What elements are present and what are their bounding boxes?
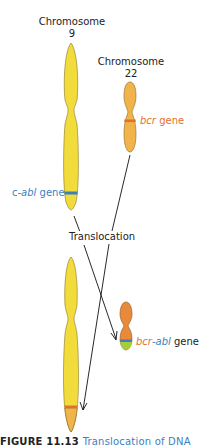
bcr-abl-gene-label: bcr-abl gene bbox=[136, 336, 199, 348]
translocation-label: Translocation bbox=[68, 231, 136, 243]
fusion-green-cap bbox=[120, 342, 131, 350]
bcr-band bbox=[124, 120, 135, 123]
chromosome-9-label: Chromosome 9 bbox=[36, 16, 108, 40]
abl-gene-name: abl bbox=[21, 187, 36, 198]
chromosome-22-label: Chromosome 22 bbox=[95, 56, 167, 80]
line-chr9-to-fusion bbox=[84, 245, 116, 339]
bcr-band-bottom bbox=[65, 406, 77, 409]
bcr-gene-suffix: gene bbox=[156, 115, 184, 126]
chromosome-22-label-line2: 22 bbox=[95, 68, 167, 80]
chromosome-22-fusion bbox=[120, 302, 132, 350]
chromosome-22-label-line1: Chromosome bbox=[95, 56, 167, 68]
abl-gene-suffix: gene bbox=[36, 187, 64, 198]
figure-number: FIGURE 11.13 bbox=[0, 436, 79, 446]
chromosome-9-bottom bbox=[64, 257, 79, 432]
chromosome-9-label-line1: Chromosome bbox=[36, 16, 108, 28]
bcr-gene-name: bcr bbox=[140, 115, 156, 126]
bcr-gene-label: bcr gene bbox=[140, 115, 184, 127]
line-chr22-to-chr9 bbox=[83, 244, 109, 410]
abl-gene-label: c-abl gene bbox=[12, 187, 65, 199]
line-chr22-to-cross-upper bbox=[112, 155, 130, 231]
figure-title: Translocation of DNA bbox=[83, 436, 191, 446]
translocation-lines bbox=[74, 155, 130, 410]
fusion-abl-name: abl bbox=[156, 336, 171, 347]
line-chr9-to-cross-upper bbox=[74, 216, 80, 232]
fusion-abl-band bbox=[120, 340, 132, 343]
chromosome-9-top bbox=[64, 43, 79, 210]
fusion-bcr-name: bcr bbox=[136, 336, 152, 347]
abl-gene-prefix: c- bbox=[12, 187, 21, 198]
fusion-suffix: gene bbox=[171, 336, 199, 347]
figure-caption: FIGURE 11.13 Translocation of DNA bbox=[0, 436, 191, 446]
chromosome-9-label-line2: 9 bbox=[36, 28, 108, 40]
chromosome-22-top bbox=[124, 82, 136, 152]
abl-band bbox=[65, 192, 78, 195]
